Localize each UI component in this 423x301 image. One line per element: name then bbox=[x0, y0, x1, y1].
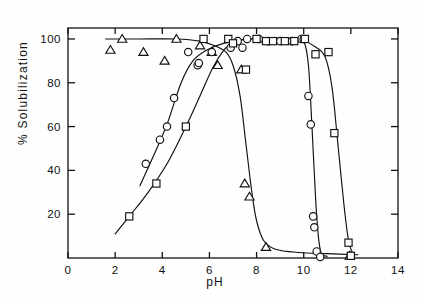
data-point-circle bbox=[243, 35, 250, 42]
data-point-square bbox=[345, 239, 352, 246]
data-point-triangle bbox=[160, 56, 169, 64]
y-axis-title: % Solubilization bbox=[16, 8, 30, 178]
y-tick-label: 80 bbox=[47, 77, 61, 89]
curve-circle bbox=[140, 39, 327, 257]
data-point-circle bbox=[239, 44, 246, 51]
y-tick-label: 40 bbox=[47, 164, 61, 176]
data-point-square bbox=[126, 213, 133, 220]
data-point-square bbox=[281, 38, 288, 45]
axis-ticks bbox=[68, 28, 398, 258]
data-point-square bbox=[262, 38, 269, 45]
data-point-triangle bbox=[106, 46, 115, 54]
data-markers bbox=[106, 35, 355, 261]
data-point-circle bbox=[185, 48, 192, 55]
data-point-circle bbox=[309, 213, 316, 220]
data-point-square bbox=[153, 180, 160, 187]
data-point-square bbox=[200, 35, 207, 42]
y-tick-label: 60 bbox=[47, 121, 61, 133]
fitted-curves bbox=[106, 38, 358, 256]
x-tick-label: 4 bbox=[159, 264, 166, 276]
data-point-square bbox=[325, 48, 332, 55]
x-tick-label: 2 bbox=[112, 264, 119, 276]
data-point-circle bbox=[317, 253, 324, 260]
data-point-circle bbox=[311, 224, 318, 231]
data-point-square bbox=[291, 38, 298, 45]
x-axis-title-text: pH bbox=[206, 275, 224, 289]
data-point-circle bbox=[307, 121, 314, 128]
data-point-circle bbox=[163, 123, 170, 130]
y-tick-label: 20 bbox=[47, 208, 61, 220]
data-point-square bbox=[301, 35, 308, 42]
x-tick-label: 14 bbox=[391, 264, 405, 276]
data-point-circle bbox=[156, 136, 163, 143]
data-point-circle bbox=[208, 48, 215, 55]
curve-triangle bbox=[106, 39, 358, 255]
figure-container: 0246810121420406080100 % Solubilization … bbox=[0, 0, 423, 301]
x-tick-label: 12 bbox=[344, 264, 358, 276]
data-point-square bbox=[312, 51, 319, 58]
chart-canvas: 0246810121420406080100 bbox=[0, 0, 423, 301]
x-tick-label: 10 bbox=[297, 264, 311, 276]
data-point-square bbox=[242, 66, 249, 73]
data-point-square bbox=[331, 130, 338, 137]
y-tick-label: 100 bbox=[40, 33, 61, 45]
data-point-square bbox=[229, 40, 236, 47]
x-tick-label: 0 bbox=[65, 264, 72, 276]
data-point-square bbox=[253, 35, 260, 42]
data-point-triangle bbox=[139, 48, 148, 56]
data-point-circle bbox=[195, 59, 202, 66]
plot-frame bbox=[68, 28, 398, 258]
data-point-square bbox=[269, 38, 276, 45]
data-point-circle bbox=[305, 92, 312, 99]
y-axis-title-text: % Solubilization bbox=[16, 41, 30, 145]
data-point-triangle bbox=[240, 179, 249, 187]
data-point-square bbox=[182, 123, 189, 130]
data-point-circle bbox=[170, 94, 177, 101]
data-point-circle bbox=[142, 160, 149, 167]
data-point-square bbox=[347, 252, 354, 259]
x-axis-title: pH bbox=[175, 275, 255, 289]
